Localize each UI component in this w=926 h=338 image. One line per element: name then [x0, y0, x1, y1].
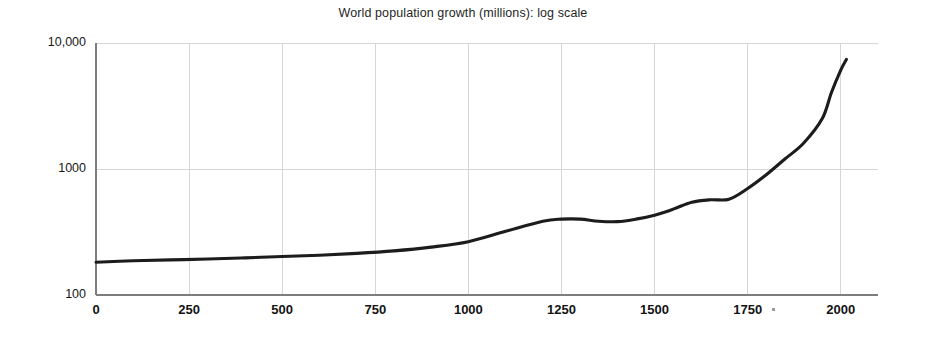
x-axis-tick-label: 1750 — [733, 302, 762, 317]
y-axis-tick-label: 100 — [65, 287, 86, 301]
y-axis-tick-label: 1000 — [58, 161, 86, 175]
chart-plot-area: 100100010,000 02505007501000125015001750… — [0, 0, 926, 338]
x-axis-tick-label: 2000 — [826, 302, 855, 317]
x-axis-tick-label: 0 — [92, 302, 99, 317]
x-axis-tick-label: 1250 — [547, 302, 576, 317]
chart-container: World population growth (millions): log … — [0, 0, 926, 338]
x-axis-ticks: 025050075010001250150017502000 — [92, 302, 855, 317]
x-axis-tick-label: 1000 — [454, 302, 483, 317]
stray-speck — [772, 308, 775, 311]
gridlines — [96, 43, 878, 295]
x-axis-tick-label: 500 — [271, 302, 293, 317]
x-axis-tick-label: 750 — [364, 302, 386, 317]
y-axis-ticks: 100100010,000 — [48, 35, 86, 301]
y-axis-tick-label: 10,000 — [48, 35, 86, 49]
x-axis-tick-label: 1500 — [640, 302, 669, 317]
x-axis-tick-label: 250 — [178, 302, 200, 317]
data-series-line — [96, 59, 846, 262]
